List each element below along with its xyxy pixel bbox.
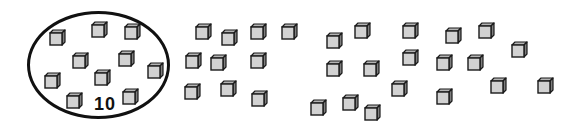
cube-icon <box>467 54 484 71</box>
cube-icon <box>354 22 371 39</box>
cube-icon <box>94 69 111 86</box>
cube-icon <box>402 22 419 39</box>
loose-cube <box>220 80 237 97</box>
cube-icon <box>250 23 267 40</box>
grouped-cube <box>94 69 111 86</box>
grouped-cube <box>147 62 164 79</box>
loose-cube <box>436 54 453 71</box>
cube-icon <box>210 54 227 71</box>
cube-icon <box>221 29 238 46</box>
loose-cube <box>364 104 381 121</box>
loose-cube <box>184 83 201 100</box>
grouped-cube <box>118 50 135 67</box>
cube-icon <box>326 60 343 77</box>
loose-cube <box>251 90 268 107</box>
cube-icon <box>490 77 507 94</box>
loose-cube <box>185 52 202 69</box>
loose-cube <box>478 22 495 39</box>
cube-icon <box>363 60 380 77</box>
cube-icon <box>44 72 61 89</box>
loose-cube <box>490 77 507 94</box>
loose-cube <box>250 23 267 40</box>
cube-icon <box>91 21 108 38</box>
cube-icon <box>220 80 237 97</box>
loose-cube <box>210 54 227 71</box>
loose-cube <box>467 54 484 71</box>
cube-icon <box>49 29 66 46</box>
loose-cube <box>363 60 380 77</box>
cube-icon <box>72 52 89 69</box>
cube-icon <box>195 23 212 40</box>
grouped-cube <box>124 23 141 40</box>
cube-icon <box>185 52 202 69</box>
group-count-label: 10 <box>94 95 116 113</box>
cube-icon <box>184 83 201 100</box>
grouped-cube <box>91 21 108 38</box>
grouped-cube <box>72 52 89 69</box>
cube-icon <box>310 99 327 116</box>
cube-icon <box>281 23 298 40</box>
cube-icon <box>251 90 268 107</box>
cube-icon <box>118 50 135 67</box>
loose-cube <box>195 23 212 40</box>
cube-icon <box>436 88 453 105</box>
grouped-cube <box>49 29 66 46</box>
loose-cube <box>326 60 343 77</box>
cube-icon <box>122 88 139 105</box>
cube-icon <box>147 62 164 79</box>
loose-cube <box>436 88 453 105</box>
loose-cube <box>221 29 238 46</box>
loose-cube <box>326 32 343 49</box>
loose-cube <box>281 23 298 40</box>
cube-icon <box>66 92 83 109</box>
loose-cube <box>537 77 554 94</box>
loose-cube <box>445 27 462 44</box>
counting-worksheet: 10 <box>0 0 582 128</box>
loose-cube <box>391 80 408 97</box>
cube-icon <box>124 23 141 40</box>
cube-icon <box>326 32 343 49</box>
cube-icon <box>402 49 419 66</box>
cube-icon <box>364 104 381 121</box>
cube-icon <box>537 77 554 94</box>
grouped-cube <box>44 72 61 89</box>
cube-icon <box>511 41 528 58</box>
loose-cube <box>342 94 359 111</box>
cube-icon <box>436 54 453 71</box>
loose-cube <box>354 22 371 39</box>
grouped-cube <box>122 88 139 105</box>
cube-icon <box>478 22 495 39</box>
loose-cube <box>402 49 419 66</box>
grouped-cube <box>66 92 83 109</box>
loose-cube <box>402 22 419 39</box>
cube-icon <box>445 27 462 44</box>
loose-cube <box>310 99 327 116</box>
cube-icon <box>391 80 408 97</box>
cube-icon <box>342 94 359 111</box>
cube-icon <box>250 52 267 69</box>
loose-cube <box>250 52 267 69</box>
loose-cube <box>511 41 528 58</box>
